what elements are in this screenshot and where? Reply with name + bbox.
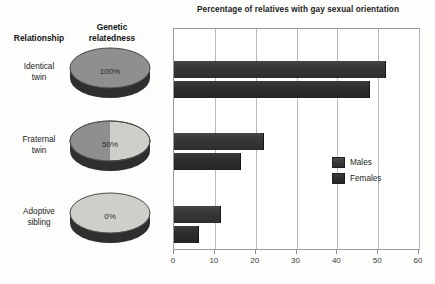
legend-swatch-males-icon	[332, 157, 345, 168]
legend-item-females: Females	[332, 173, 381, 184]
chart-legend: Males Females	[332, 157, 381, 189]
x-tick-30	[296, 250, 297, 254]
bar-identical-twin-females	[174, 81, 370, 98]
disc-graphic	[64, 46, 156, 104]
column-header-genetic-line1: Genetic	[72, 22, 152, 33]
gridline-60	[419, 29, 420, 249]
bar-fraternal-twin-females	[174, 153, 241, 170]
chart-title: Percentage of relatives with gay sexual …	[168, 5, 428, 15]
x-tick-label-30: 30	[284, 256, 308, 265]
x-tick-40	[336, 250, 337, 254]
column-header-relationship: Relationship	[4, 33, 74, 44]
disc-graphic	[64, 119, 156, 177]
column-header-genetic-line2: relatedness	[72, 33, 152, 44]
legend-swatch-females-icon	[332, 173, 345, 184]
figure-root: Percentage of relatives with gay sexual …	[0, 0, 435, 284]
bar-adoptive-sibling-males	[174, 206, 221, 223]
disc-graphic	[64, 191, 156, 249]
x-tick-60	[418, 250, 419, 254]
bar-fraternal-twin-males	[174, 133, 264, 150]
legend-label-females: Females	[350, 174, 381, 183]
bar-adoptive-sibling-females	[174, 226, 199, 243]
x-tick-50	[377, 250, 378, 254]
legend-label-males: Males	[350, 158, 372, 167]
bar-identical-twin-males	[174, 61, 386, 78]
x-tick-label-10: 10	[202, 256, 226, 265]
x-tick-0	[173, 250, 174, 254]
relatedness-disc-adoptive-sibling: 0%	[64, 191, 156, 249]
x-tick-10	[214, 250, 215, 254]
x-tick-label-0: 0	[161, 256, 185, 265]
relatedness-disc-fraternal-twin: 50%	[64, 119, 156, 177]
bar-chart-plot-area	[173, 28, 420, 250]
x-tick-label-40: 40	[324, 256, 348, 265]
relatedness-disc-identical-twin: 100%	[64, 46, 156, 104]
x-tick-label-50: 50	[365, 256, 389, 265]
x-tick-label-60: 60	[406, 256, 430, 265]
x-tick-label-20: 20	[243, 256, 267, 265]
legend-item-males: Males	[332, 157, 381, 168]
x-tick-20	[255, 250, 256, 254]
column-header-genetic-relatedness: Genetic relatedness	[72, 22, 152, 43]
